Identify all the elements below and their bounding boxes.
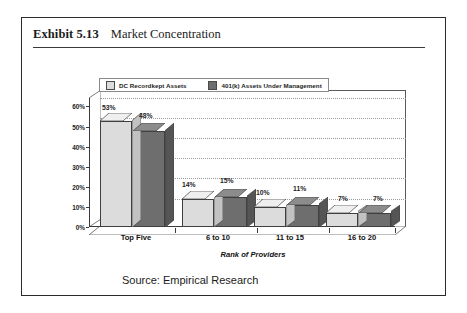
y-tick-mark-20 xyxy=(86,187,89,188)
exhibit-frame: Exhibit 5.13Market Concentration DC Reco… xyxy=(21,17,446,296)
chart-legend: DC Recordkept Assets 401(k) Assets Under… xyxy=(99,78,329,92)
legend-swatch-light-icon xyxy=(106,81,115,90)
bar-front-face xyxy=(100,121,132,228)
bar-front-face xyxy=(326,213,358,227)
bar-value-11-to-15-dark: 11% xyxy=(293,185,306,192)
legend-item-dc-recordkept-assets: DC Recordkept Assets xyxy=(106,81,186,90)
y-tick-label-60: 60% xyxy=(72,103,85,110)
title-divider xyxy=(33,47,425,48)
bar-value-16-to-20-light: 7% xyxy=(338,195,348,202)
bar-top-face xyxy=(133,123,165,131)
y-tick-label-20: 20% xyxy=(72,183,85,190)
y-tick-label-50: 50% xyxy=(72,123,85,130)
bar-side-face xyxy=(391,205,400,227)
x-tick-top-five xyxy=(175,228,176,233)
y-axis-line xyxy=(89,98,90,227)
y-tick-label-10: 10% xyxy=(72,203,85,210)
bar-value-16-to-20-dark: 7% xyxy=(373,195,383,202)
y-tick-mark-60 xyxy=(86,106,89,107)
bar-value-top-five-light: 53% xyxy=(102,104,116,111)
chart-figure: DC Recordkept Assets 401(k) Assets Under… xyxy=(22,54,447,264)
exhibit-title: Exhibit 5.13Market Concentration xyxy=(33,27,433,45)
x-category-label-top-five: Top Five xyxy=(97,233,175,242)
bar-11-to-15-dc-recordkept-assets[interactable]: 10% xyxy=(254,207,286,227)
bar-value-11-to-15-light: 10% xyxy=(256,189,270,196)
y-tick-label-0: 0% xyxy=(76,224,85,231)
y-tick-mark-0 xyxy=(86,227,89,228)
x-axis-title: Rank of Providers xyxy=(100,250,406,259)
y-tick-mark-10 xyxy=(86,207,89,208)
legend-swatch-dark-icon xyxy=(208,81,217,90)
bar-value-top-five-dark: 48% xyxy=(139,112,153,119)
source-note: Source: Empirical Research xyxy=(122,274,258,286)
x-category-label-11-to-15: 11 to 15 xyxy=(251,233,329,242)
gridline-60 xyxy=(100,98,406,99)
bar-top-face xyxy=(215,189,247,197)
legend-item-401k-assets-under-management: 401(k) Assets Under Management xyxy=(208,81,321,90)
y-tick-mark-50 xyxy=(86,127,89,128)
bar-top-face xyxy=(287,197,319,205)
bar-top-face xyxy=(100,113,132,121)
bar-6-to-10-dc-recordkept-assets[interactable]: 14% xyxy=(182,199,214,227)
legend-label-401k-assets-under-management: 401(k) Assets Under Management xyxy=(221,82,321,89)
x-category-label-6-to-10: 6 to 10 xyxy=(179,233,257,242)
y-tick-label-30: 30% xyxy=(72,163,85,170)
x-category-label-16-to-20: 16 to 20 xyxy=(323,233,401,242)
bar-front-face xyxy=(254,207,286,227)
bar-side-face xyxy=(165,123,174,228)
bar-top-face xyxy=(326,205,358,213)
exhibit-caption: Market Concentration xyxy=(111,27,221,41)
bar-top-face xyxy=(359,205,391,213)
legend-label-dc-recordkept-assets: DC Recordkept Assets xyxy=(119,82,186,89)
plot-area: 60% 50% 40% 30% 20% 10% 0% xyxy=(89,98,406,235)
y-tick-mark-30 xyxy=(86,167,89,168)
bar-16-to-20-dc-recordkept-assets[interactable]: 7% xyxy=(326,213,358,227)
y-tick-mark-40 xyxy=(86,147,89,148)
y-tick-label-40: 40% xyxy=(72,143,85,150)
bar-front-face xyxy=(182,199,214,227)
exhibit-number: Exhibit 5.13 xyxy=(33,27,99,41)
bar-value-6-to-10-dark: 15% xyxy=(220,177,234,184)
bar-top-five-dc-recordkept-assets[interactable]: 53% xyxy=(100,121,132,228)
bar-top-face xyxy=(254,199,286,207)
bar-top-face xyxy=(182,191,214,199)
bar-value-6-to-10-light: 14% xyxy=(182,181,196,188)
